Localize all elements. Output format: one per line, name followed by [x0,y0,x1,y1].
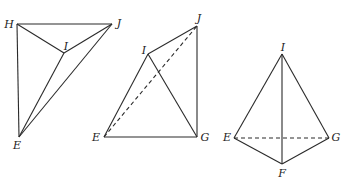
vertex-label-i: I [64,41,68,52]
vertex-label-g: G [201,132,210,143]
figure-3 [234,54,329,164]
vertex-label-f: F [278,168,286,179]
vertex-label-i: I [142,45,146,56]
vertex-label-e: E [13,140,21,151]
edge-ig [148,54,197,137]
edge-hi [17,24,64,53]
edge-ie [234,54,282,138]
vertex-label-i: I [281,42,285,53]
edge-ej-dashed [104,26,197,137]
edge-ie [19,53,64,137]
edge-ij [148,26,197,54]
vertex-label-g: G [332,132,341,143]
edge-ig [282,54,329,138]
edge-fg [282,138,329,164]
edge-he [17,24,19,137]
vertex-label-h: H [4,19,14,30]
diagram-canvas: HJIEIJEGIEGF [0,0,345,181]
edge-ef [234,138,282,164]
figure-2 [104,26,197,137]
vertex-label-e: E [92,132,100,143]
edge-ij [64,24,112,53]
vertex-label-j: J [117,18,121,29]
vertex-label-e: E [223,132,231,143]
geometry-figures [0,0,345,181]
vertex-label-j: J [197,13,201,24]
edge-ei [104,54,148,137]
